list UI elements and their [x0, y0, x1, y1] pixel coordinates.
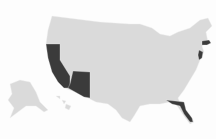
hawaii	[56, 96, 71, 110]
state-massachusetts	[202, 40, 211, 45]
state-florida	[166, 100, 193, 122]
alaska	[8, 80, 48, 118]
state-new-jersey	[198, 50, 203, 60]
us-map	[0, 0, 216, 139]
contiguous-us	[46, 16, 212, 124]
